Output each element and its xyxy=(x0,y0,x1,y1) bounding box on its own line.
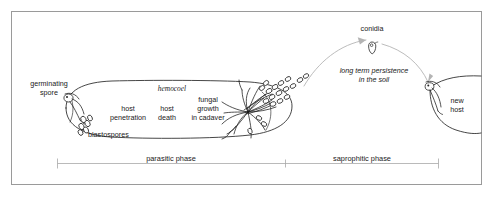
host-death-label-line2: death xyxy=(158,113,176,122)
blastospores-label: blastospores xyxy=(88,130,129,139)
fungal-growth-label-line3: in cadaver xyxy=(191,113,225,122)
persistence-label-line1: long term persistence xyxy=(340,66,409,75)
germinating-spore-label-line2: spore xyxy=(40,88,58,97)
host-penetration-label-line2: penetration xyxy=(110,113,146,122)
germinating-spore-label-line1: germinating xyxy=(30,79,68,88)
hemocoel-label: hemocoel xyxy=(158,84,186,93)
fungal-growth-label-line1: fungal xyxy=(198,95,218,104)
host-penetration-label-line1: host xyxy=(121,104,135,113)
conidium-icon xyxy=(369,42,378,54)
new-host-label-line1: new xyxy=(450,96,464,105)
persistence-label-line2: in the soil xyxy=(359,75,390,84)
saprophitic-phase-label: saprophitic phase xyxy=(333,154,391,163)
fungal-growth-label-line2: growth xyxy=(197,104,219,113)
conidia-label: conidia xyxy=(361,24,384,33)
parasitic-phase-label: parasitic phase xyxy=(146,154,196,163)
hyphae-icon xyxy=(222,76,297,139)
figure-canvas: germinating spore blastospores hemocoel … xyxy=(0,0,497,198)
host-death-label-line1: host xyxy=(160,104,174,113)
dispersing-conidia-icon xyxy=(296,73,309,84)
new-host-label-line2: host xyxy=(450,105,464,114)
